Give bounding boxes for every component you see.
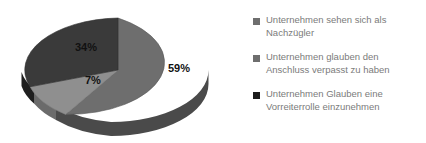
slice-value-small: 7% (85, 74, 101, 86)
legend-item-1[interactable]: Unternehmen glauben den Anschluss verpas… (253, 51, 425, 76)
slice-value-large: 59% (168, 62, 190, 74)
slice-value-medium: 34% (75, 41, 97, 53)
legend-label-1: Unternehmen glauben den Anschluss verpas… (266, 51, 390, 76)
pie-chart-figure: 59% 34% 7% Unternehmen sehen sich als Na… (0, 0, 426, 143)
legend-item-0[interactable]: Unternehmen sehen sich als Nachzügler (253, 14, 425, 39)
pie-svg: 59% 34% 7% (8, 2, 226, 143)
legend-item-2[interactable]: Unternehmen Glauben eine Vorreiterrolle … (253, 88, 425, 113)
legend-label-0: Unternehmen sehen sich als Nachzügler (266, 14, 386, 39)
pie-chart-graphic: 59% 34% 7% (8, 2, 226, 143)
legend-label-2: Unternehmen Glauben eine Vorreiterrolle … (266, 88, 383, 113)
legend-swatch-icon-0 (253, 18, 260, 25)
legend-swatch-icon-1 (253, 55, 260, 62)
legend-swatch-icon-2 (253, 92, 260, 99)
chart-legend: Unternehmen sehen sich als Nachzügler Un… (253, 14, 425, 132)
